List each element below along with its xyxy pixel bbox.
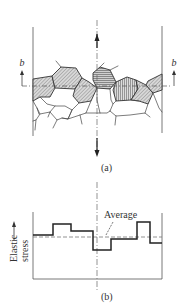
grain-shaded bbox=[33, 76, 55, 101]
arrow-up-icon bbox=[172, 70, 176, 75]
section-label-right: b bbox=[172, 57, 177, 68]
shaded-grains bbox=[33, 67, 162, 104]
diagram-canvas: b b (a) Average Elastic stress (b) bbox=[0, 0, 184, 308]
average-leader-line bbox=[106, 222, 113, 235]
arrow-up-icon bbox=[20, 70, 24, 75]
arrow-up-icon bbox=[12, 221, 16, 227]
section-marker-left bbox=[20, 70, 24, 86]
section-marker-right bbox=[172, 70, 176, 86]
section-label-left: b bbox=[20, 57, 25, 68]
elastic-stress-curve bbox=[33, 222, 162, 250]
y-axis-label: Elastic stress bbox=[8, 234, 30, 262]
panel-a-caption: (a) bbox=[101, 162, 112, 174]
panel-b: Average Elastic stress (b) bbox=[8, 182, 162, 303]
ylabel-line1: Elastic bbox=[8, 234, 19, 262]
arrow-down-icon bbox=[95, 150, 100, 157]
panel-a: b b (a) bbox=[20, 20, 177, 174]
panel-b-caption: (b) bbox=[101, 291, 113, 303]
average-label: Average bbox=[104, 209, 138, 220]
ylabel-line2: stress bbox=[19, 240, 30, 262]
arrow-up-icon bbox=[95, 34, 100, 41]
